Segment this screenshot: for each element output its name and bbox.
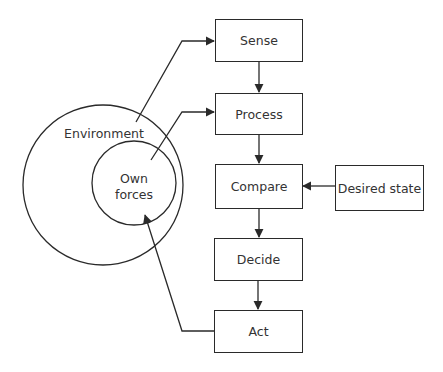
desired-state-label: Desired state: [338, 181, 421, 196]
process-label: Process: [235, 107, 282, 122]
own-forces-label-line2: forces: [104, 187, 164, 203]
own-forces-label-line1: Own: [104, 171, 164, 187]
arrow-own-forces-to-process: [151, 112, 214, 160]
decide-label: Decide: [237, 252, 280, 267]
decide-box: Decide: [214, 238, 303, 281]
arrow-environment-to-sense: [136, 41, 214, 122]
arrow-act-to-own-forces: [145, 215, 214, 331]
compare-box: Compare: [215, 164, 303, 209]
sense-label: Sense: [240, 33, 278, 48]
environment-label: Environment: [64, 126, 144, 142]
sense-box: Sense: [215, 19, 303, 62]
act-label: Act: [248, 324, 268, 339]
own-forces-label: Own forces: [104, 171, 164, 203]
compare-label: Compare: [231, 179, 288, 194]
process-box: Process: [215, 93, 303, 135]
desired-state-box: Desired state: [335, 165, 424, 211]
act-box: Act: [214, 310, 303, 353]
